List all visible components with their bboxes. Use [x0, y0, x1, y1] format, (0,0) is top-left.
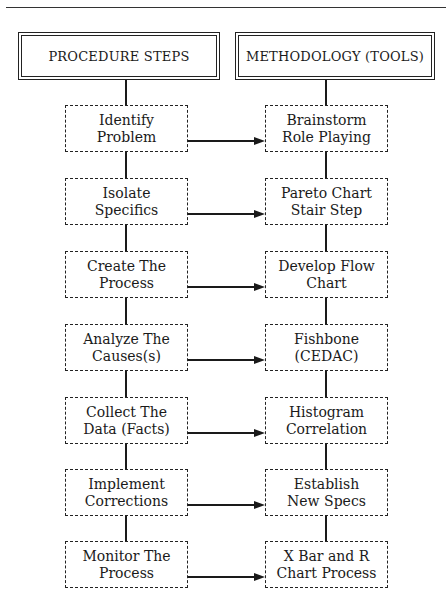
methodology-tool-label: Stair Step: [291, 202, 363, 219]
procedure-steps-header-label: PROCEDURE STEPS: [48, 49, 189, 64]
procedure-step-label: Corrections: [85, 493, 168, 510]
procedure-step-label: Identify: [99, 112, 154, 129]
connector-line: [325, 152, 327, 178]
methodology-tool-label: Fishbone: [294, 331, 359, 348]
procedure-step-label: Collect The: [86, 404, 167, 421]
procedure-step-box: IsolateSpecifics: [65, 178, 188, 225]
procedure-step-box: Analyze TheCauses(s): [65, 324, 188, 371]
connector-line: [325, 80, 327, 105]
procedure-step-box: ImplementCorrections: [65, 469, 188, 516]
methodology-tool-box: EstablishNew Specs: [265, 469, 388, 516]
arrow-right-icon: [188, 495, 265, 505]
methodology-tool-box: Fishbone(CEDAC): [265, 324, 388, 371]
methodology-tool-box: HistogramCorrelation: [265, 397, 388, 444]
connector-line: [125, 80, 127, 105]
arrow-right-icon: [188, 567, 265, 577]
connector-line: [325, 444, 327, 469]
methodology-tool-box: BrainstormRole Playing: [265, 105, 388, 152]
connector-line: [325, 516, 327, 541]
methodology-tool-label: Role Playing: [282, 129, 371, 146]
methodology-tool-label: Chart: [306, 275, 346, 292]
methodology-tool-label: Chart Process: [277, 565, 377, 582]
arrow-right-icon: [188, 350, 265, 360]
connector-line: [325, 225, 327, 251]
procedure-step-label: Problem: [97, 129, 157, 146]
connector-line: [125, 516, 127, 541]
connector-line: [125, 444, 127, 469]
arrow-right-icon: [188, 204, 265, 214]
procedure-step-label: Analyze The: [83, 331, 170, 348]
procedure-steps-header: PROCEDURE STEPS: [18, 32, 220, 80]
methodology-tool-label: New Specs: [287, 493, 366, 510]
methodology-tool-label: X Bar and R: [284, 548, 370, 565]
connector-line: [125, 298, 127, 324]
methodology-tools-header: METHODOLOGY (TOOLS): [235, 32, 435, 80]
procedure-step-label: Implement: [88, 476, 165, 493]
procedure-step-label: Data (Facts): [83, 421, 170, 438]
methodology-tool-box: Develop FlowChart: [265, 251, 388, 298]
connector-line: [325, 371, 327, 397]
procedure-step-box: Monitor TheProcess: [65, 541, 188, 588]
procedure-step-box: Collect TheData (Facts): [65, 397, 188, 444]
top-rule: [6, 7, 446, 8]
methodology-tool-box: Pareto ChartStair Step: [265, 178, 388, 225]
methodology-tool-label: Develop Flow: [278, 258, 375, 275]
procedure-step-label: Process: [99, 275, 154, 292]
methodology-tool-label: Histogram: [289, 404, 364, 421]
methodology-tool-label: Pareto Chart: [281, 185, 372, 202]
connector-line: [125, 371, 127, 397]
procedure-step-box: IdentifyProblem: [65, 105, 188, 152]
methodology-tool-label: Correlation: [286, 421, 367, 438]
methodology-tool-label: (CEDAC): [295, 348, 359, 365]
procedure-step-label: Process: [99, 565, 154, 582]
methodology-tool-box: X Bar and RChart Process: [265, 541, 388, 588]
connector-line: [325, 298, 327, 324]
procedure-step-label: Causes(s): [92, 348, 161, 365]
procedure-step-label: Isolate: [103, 185, 151, 202]
connector-line: [125, 152, 127, 178]
arrow-right-icon: [188, 423, 265, 433]
procedure-step-label: Create The: [87, 258, 166, 275]
arrow-right-icon: [188, 131, 265, 141]
methodology-tool-label: Brainstorm: [286, 112, 366, 129]
procedure-step-box: Create TheProcess: [65, 251, 188, 298]
methodology-tools-header-label: METHODOLOGY (TOOLS): [246, 49, 424, 64]
arrow-right-icon: [188, 277, 265, 287]
procedure-step-label: Monitor The: [82, 548, 170, 565]
connector-line: [125, 225, 127, 251]
methodology-tool-label: Establish: [294, 476, 360, 493]
procedure-step-label: Specifics: [95, 202, 159, 219]
